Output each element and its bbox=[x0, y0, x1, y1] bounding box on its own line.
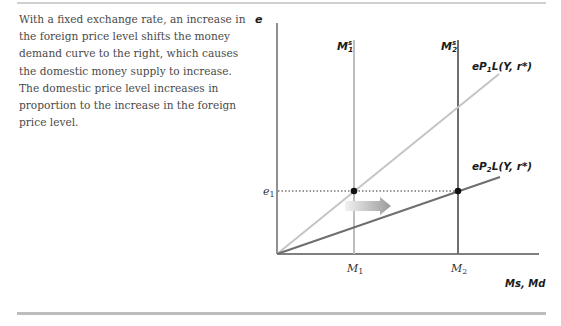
y-axis-label: e bbox=[255, 13, 263, 26]
chart: e Ms1 Ms2 eP1L(Y, r*) eP2L(Y, r*) e1 M1 … bbox=[0, 0, 561, 326]
m2-tick-label: M2 bbox=[450, 262, 467, 276]
equilibrium-point-2 bbox=[455, 188, 462, 195]
md1-line bbox=[277, 74, 499, 254]
e1-tick-label: e1 bbox=[263, 185, 275, 199]
md2-label: eP2L(Y, r*) bbox=[472, 160, 532, 174]
x-axis-label: Ms, Md bbox=[505, 278, 546, 289]
m1s-label: Ms1 bbox=[337, 39, 353, 54]
shift-right-arrow-icon bbox=[345, 197, 391, 215]
bottom-divider bbox=[17, 312, 546, 315]
md1-label: eP1L(Y, r*) bbox=[472, 60, 532, 74]
m2s-label: Ms2 bbox=[441, 39, 457, 54]
m1-tick-label: M1 bbox=[346, 262, 363, 276]
equilibrium-point-1 bbox=[351, 188, 358, 195]
md2-line bbox=[277, 177, 500, 254]
